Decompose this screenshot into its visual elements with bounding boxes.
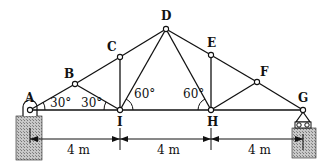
label-F: F — [260, 65, 269, 79]
joint-I — [117, 107, 122, 112]
joint-C — [117, 54, 122, 59]
joint-F — [254, 79, 259, 84]
label-H: H — [207, 115, 218, 129]
member-EF — [211, 55, 257, 82]
dimension-label-IH: 4 m — [157, 143, 180, 157]
label-D: D — [161, 9, 171, 23]
joint-B — [72, 81, 77, 86]
joint-A — [27, 107, 32, 112]
angle-label-H-left: 60° — [183, 87, 204, 101]
label-C: C — [107, 40, 117, 54]
dimension-label-HG: 4 m — [248, 143, 271, 157]
member-FG — [257, 82, 303, 110]
label-A: A — [24, 91, 35, 105]
member-FH — [211, 82, 257, 110]
label-E: E — [207, 36, 216, 50]
angle-arc-A — [43, 102, 45, 110]
member-BC — [75, 57, 120, 84]
truss-diagram: A B C D E F G H I 30° 30° 60° 60° 4 m 4 … — [0, 0, 334, 165]
label-B: B — [64, 67, 74, 81]
joint-H — [208, 107, 213, 112]
angle-label-I-left: 30° — [81, 96, 102, 110]
angle-label-I-right: 60° — [134, 87, 155, 101]
member-CD — [120, 29, 166, 57]
angle-arc-I-right — [126, 99, 133, 110]
right-roller-support — [292, 112, 316, 158]
angle-arc-I-left — [104, 102, 106, 110]
label-G: G — [298, 91, 308, 105]
label-I: I — [117, 115, 123, 129]
joint-E — [208, 52, 213, 57]
joint-G — [300, 107, 305, 112]
angle-label-A: 30° — [50, 96, 71, 110]
dimension-label-AI: 4 m — [67, 143, 90, 157]
joint-D — [163, 26, 168, 31]
